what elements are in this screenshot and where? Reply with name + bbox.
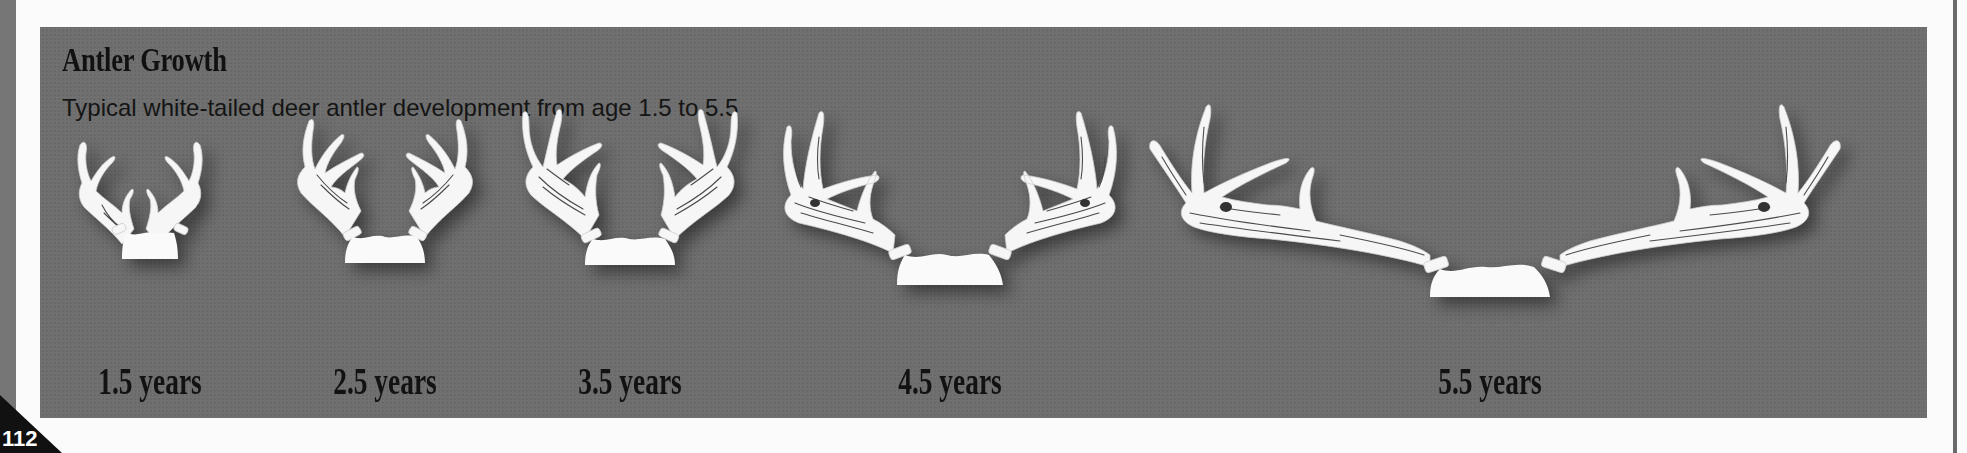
antler-rack-5-5-icon — [1140, 27, 1850, 327]
stage-label: 2.5 years — [311, 360, 459, 403]
stage-4-5-years: 4.5 years — [765, 27, 1135, 418]
stage-5-5-years: 5.5 years — [1140, 27, 1850, 418]
stage-label: 5.5 years — [1416, 360, 1564, 403]
stage-1-5-years: 1.5 years — [60, 27, 240, 418]
antler-growth-figure: Antler Growth Typical white-tailed deer … — [40, 27, 1927, 418]
antler-rack-2-5-icon — [265, 27, 505, 287]
page-edge-strip — [0, 0, 16, 453]
antler-rack-1-5-icon — [60, 27, 240, 287]
antler-rack-4-5-icon — [765, 27, 1135, 287]
antler-rack-3-5-icon — [495, 27, 765, 287]
stage-label: 3.5 years — [556, 360, 704, 403]
stage-label: 1.5 years — [76, 360, 224, 403]
page-margin-rule — [1953, 0, 1957, 453]
stage-2-5-years: 2.5 years — [265, 27, 505, 418]
stage-label: 4.5 years — [876, 360, 1024, 403]
stage-3-5-years: 3.5 years — [495, 27, 765, 418]
page-number: 112 — [2, 426, 38, 452]
